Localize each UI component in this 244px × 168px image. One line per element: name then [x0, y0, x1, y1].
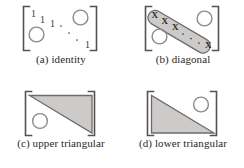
identity-matrix-diagram: 1 1 1 1	[0, 0, 122, 58]
caption-diagonal: (b) diagonal	[122, 53, 244, 66]
lower-triangular-svg	[122, 84, 244, 142]
entry-x-2: X	[162, 16, 169, 26]
zero-circle-lower-left	[152, 29, 167, 44]
entry-one-2: 1	[40, 14, 45, 25]
entry-one-3: 1	[50, 18, 55, 29]
matrix-structure-figure: 1 1 1 1 (a) identity	[0, 0, 244, 168]
zero-circle-lower-left	[33, 114, 48, 129]
diagonal-ones: 1 1 1 1	[31, 8, 90, 50]
right-bracket-icon	[213, 7, 219, 51]
zero-region-markers	[29, 10, 88, 42]
identity-matrix-svg: 1 1 1 1	[0, 0, 122, 58]
zero-circle-upper-right	[197, 11, 212, 26]
panel-upper-triangular: (c) upper triangular	[0, 84, 122, 168]
right-bracket-icon	[91, 7, 97, 51]
zero-circle-upper-right	[194, 97, 209, 112]
entry-one-4: 1	[85, 39, 90, 50]
caption-identity: (a) identity	[0, 53, 122, 66]
right-bracket-icon	[211, 92, 217, 136]
entry-one-1: 1	[31, 8, 36, 19]
caption-upper-triangular: (c) upper triangular	[0, 137, 122, 150]
entry-x-4: X	[205, 40, 212, 50]
zero-circle-lower-left	[29, 27, 44, 42]
left-bracket-icon	[24, 7, 30, 51]
lower-triangular-region	[152, 96, 215, 134]
entry-x-3: X	[172, 22, 179, 32]
panel-lower-triangular: (d) lower triangular	[122, 84, 244, 168]
upper-triangular-diagram	[0, 84, 122, 142]
diagonal-matrix-svg: X X X X	[122, 0, 244, 58]
zero-circle-upper-right	[73, 10, 88, 25]
upper-triangular-svg	[0, 84, 122, 142]
panel-identity: 1 1 1 1 (a) identity	[0, 0, 122, 84]
diagonal-matrix-diagram: X X X X	[122, 0, 244, 58]
lower-triangular-diagram	[122, 84, 244, 142]
left-bracket-icon	[26, 92, 32, 136]
entry-x-1: X	[152, 10, 159, 20]
panel-diagonal: X X X X (b) diagonal	[122, 0, 244, 84]
diagonal-ellipsis-icon	[60, 25, 78, 41]
caption-lower-triangular: (d) lower triangular	[122, 137, 244, 150]
